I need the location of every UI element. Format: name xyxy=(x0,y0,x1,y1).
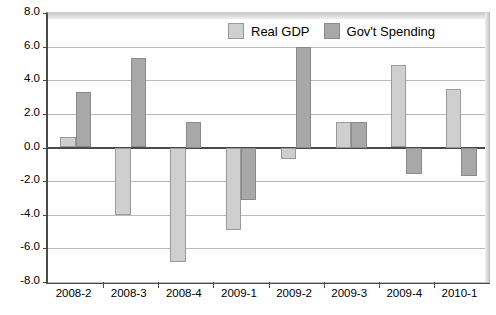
x-tick-label: 2009-1 xyxy=(221,288,257,300)
bar xyxy=(296,47,311,148)
gridline xyxy=(48,13,489,14)
legend-label-govt-spending: Gov't Spending xyxy=(347,25,436,38)
gridline xyxy=(48,80,489,81)
bar xyxy=(351,122,366,147)
gridline xyxy=(48,248,489,249)
x-axis: 2008-22008-32008-42009-12009-22009-32009… xyxy=(46,288,490,310)
bar xyxy=(186,122,201,147)
y-tick-label: 0.0 xyxy=(6,141,40,153)
chart-legend: Real GDP Gov't Spending xyxy=(228,23,435,39)
y-tick-mark xyxy=(43,248,48,249)
bar xyxy=(391,65,406,147)
y-tick-mark xyxy=(43,80,48,81)
y-tick-label: -8.0 xyxy=(6,275,40,287)
y-tick-mark xyxy=(43,148,48,149)
y-tick-mark xyxy=(43,47,48,48)
gridline xyxy=(48,114,489,115)
bar xyxy=(446,89,461,148)
legend-swatch-govt-spending xyxy=(324,23,340,39)
bar xyxy=(76,92,91,147)
bar xyxy=(115,148,130,215)
y-axis: 8.06.04.02.00.0-2.0-4.0-6.0-8.0 xyxy=(0,0,40,315)
y-tick-label: -6.0 xyxy=(6,242,40,254)
legend-swatch-real-gdp xyxy=(228,23,244,39)
x-tick-label: 2009-2 xyxy=(276,288,312,300)
gridline xyxy=(48,47,489,48)
x-tick-label: 2008-4 xyxy=(166,288,202,300)
y-tick-label: 2.0 xyxy=(6,107,40,119)
bar xyxy=(60,137,75,147)
x-tick-label: 2010-1 xyxy=(442,288,478,300)
y-tick-label: 6.0 xyxy=(6,40,40,52)
bar xyxy=(461,148,476,177)
legend-item-govt-spending: Gov't Spending xyxy=(324,23,436,39)
legend-item-real-gdp: Real GDP xyxy=(228,23,310,39)
zero-line xyxy=(48,147,489,149)
bar xyxy=(336,122,351,147)
y-tick-mark xyxy=(43,114,48,115)
bar xyxy=(170,148,185,262)
x-tick-label: 2009-4 xyxy=(386,288,422,300)
plot-frame xyxy=(46,12,490,284)
bar xyxy=(131,58,146,147)
y-tick-mark xyxy=(43,13,48,14)
y-tick-mark xyxy=(43,282,48,283)
plot-area xyxy=(48,13,489,282)
bar xyxy=(406,148,421,175)
y-tick-label: -2.0 xyxy=(6,174,40,186)
y-tick-label: 4.0 xyxy=(6,74,40,86)
x-tick-label: 2008-2 xyxy=(56,288,92,300)
bar-chart: 8.06.04.02.00.0-2.0-4.0-6.0-8.0 2008-220… xyxy=(0,0,496,315)
legend-label-real-gdp: Real GDP xyxy=(251,25,310,38)
x-tick-label: 2009-3 xyxy=(331,288,367,300)
x-tick-label: 2008-3 xyxy=(111,288,147,300)
y-tick-mark xyxy=(43,181,48,182)
gridline xyxy=(48,181,489,182)
y-tick-label: 8.0 xyxy=(6,6,40,18)
bar xyxy=(241,148,256,200)
bar xyxy=(281,148,296,160)
bar xyxy=(226,148,241,230)
y-tick-mark xyxy=(43,215,48,216)
gridline xyxy=(48,215,489,216)
y-tick-label: -4.0 xyxy=(6,208,40,220)
